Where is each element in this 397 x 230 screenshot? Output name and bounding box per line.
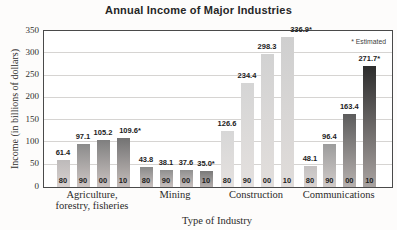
bar-year-label: 10 bbox=[359, 176, 379, 185]
x-axis-title: Type of Industry bbox=[43, 215, 391, 226]
bar-year-label: 00 bbox=[176, 176, 196, 185]
estimated-note: * Estimated bbox=[351, 38, 386, 45]
plot-area: 61.48097.190105.200109.6*1043.88038.1903… bbox=[43, 30, 393, 188]
y-tick-250: 250 bbox=[0, 69, 39, 79]
bar-year-label: 90 bbox=[319, 176, 339, 185]
bar-year-label: 90 bbox=[73, 176, 93, 185]
bar-2-10 bbox=[281, 37, 294, 187]
bar-year-label: 80 bbox=[53, 176, 73, 185]
gridline-200 bbox=[44, 97, 392, 98]
y-tick-200: 200 bbox=[0, 91, 39, 101]
bar-value-label: 271.7* bbox=[344, 54, 394, 63]
bar-year-label: 80 bbox=[217, 176, 237, 185]
y-tick-100: 100 bbox=[0, 136, 39, 146]
y-tick-350: 350 bbox=[0, 25, 39, 35]
bar-year-label: 10 bbox=[196, 176, 216, 185]
bar-year-label: 90 bbox=[237, 176, 257, 185]
bar-value-label: 109.6* bbox=[105, 126, 155, 135]
bar-value-label: 336.9* bbox=[276, 25, 326, 34]
figure: Annual Income of Major Industries Income… bbox=[0, 0, 397, 230]
chart-title: Annual Income of Major Industries bbox=[0, 4, 397, 16]
y-tick-50: 50 bbox=[0, 158, 39, 168]
bar-year-label: 00 bbox=[339, 176, 359, 185]
y-tick-150: 150 bbox=[0, 114, 39, 124]
bar-2-00 bbox=[261, 54, 274, 187]
bar-year-label: 00 bbox=[257, 176, 277, 185]
bar-year-label: 10 bbox=[277, 176, 297, 185]
bar-year-label: 80 bbox=[300, 176, 320, 185]
bar-2-90 bbox=[241, 83, 254, 187]
bar-year-label: 00 bbox=[93, 176, 113, 185]
category-label-3: Communications bbox=[279, 189, 397, 200]
gridline-250 bbox=[44, 75, 392, 76]
bar-year-label: 90 bbox=[156, 176, 176, 185]
gridline-300 bbox=[44, 52, 392, 53]
bar-3-10 bbox=[363, 66, 376, 187]
bar-year-label: 10 bbox=[113, 176, 133, 185]
bar-year-label: 80 bbox=[136, 176, 156, 185]
y-tick-300: 300 bbox=[0, 47, 39, 57]
